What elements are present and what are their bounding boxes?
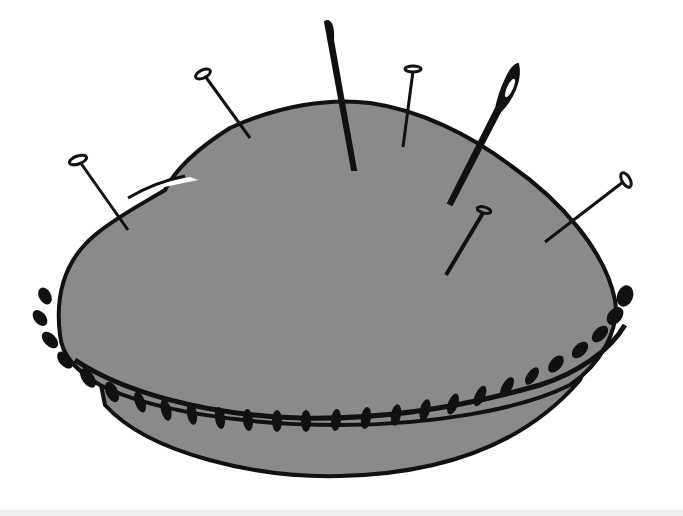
pin-upper-left-icon: [194, 67, 250, 138]
bottom-border: [0, 510, 683, 516]
pincushion-illustration: [0, 0, 683, 516]
pin-left-icon: [68, 153, 128, 230]
